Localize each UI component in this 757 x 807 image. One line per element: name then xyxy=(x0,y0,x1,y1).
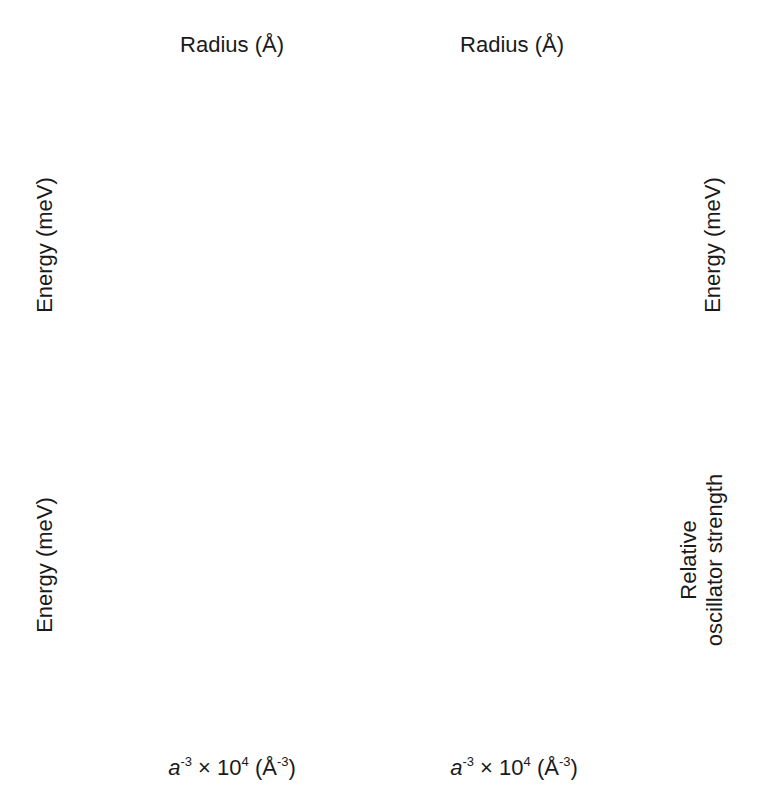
top-axis-title-left: Radius (Å) xyxy=(180,32,284,57)
bottom-axis-title-right: a-3 × 104 (Å-3) xyxy=(450,754,578,780)
top-axis-title-right: Radius (Å) xyxy=(460,32,564,57)
left-axis-title-top: Energy (meV) xyxy=(32,177,57,313)
right-axis-title-d-line1: Relative xyxy=(676,520,701,599)
svg-text:a-3 × 104 (Å-3): a-3 × 104 (Å-3) xyxy=(168,754,296,780)
right-axis-title-b: Energy (meV) xyxy=(700,177,725,313)
right-axis-title-d-line2: oscillator strength xyxy=(702,474,727,646)
bottom-axis-title-left: a-3 × 104 (Å-3) xyxy=(168,754,296,780)
figure: Radius (Å) Radius (Å) Energy (meV) Energ… xyxy=(0,0,757,807)
left-axis-title-bottom: Energy (meV) xyxy=(32,497,57,633)
svg-text:a-3 × 104 (Å-3): a-3 × 104 (Å-3) xyxy=(450,754,578,780)
